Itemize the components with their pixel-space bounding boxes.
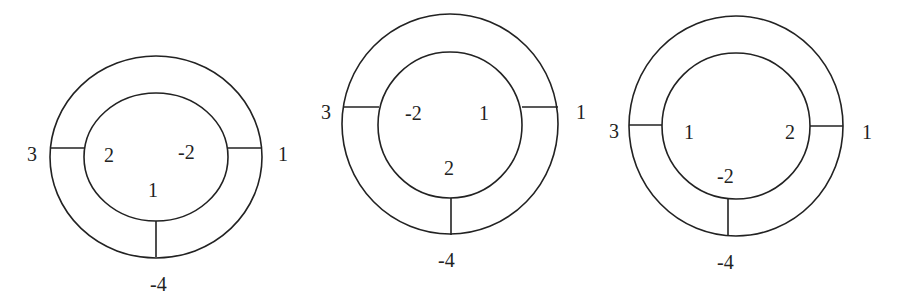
outer-label-right: 1 [576,101,586,123]
outer-label-right: 1 [862,121,872,143]
outer-ring [342,14,558,234]
outer-label-right: 1 [278,143,288,165]
outer-label-bottom: -4 [438,249,455,271]
outer-label-bottom: -4 [150,273,167,295]
inner-label-left: 2 [104,144,114,166]
inner-label-center: -2 [717,165,734,187]
inner-label-center: 2 [444,157,454,179]
diagram-2: 3 1 -4 -2 1 2 [321,14,586,271]
inner-label-left: -2 [405,102,422,124]
outer-label-bottom: -4 [717,251,734,273]
inner-label-left: 1 [684,121,694,143]
inner-label-center: 1 [148,179,158,201]
outer-label-left: 3 [609,120,619,142]
outer-label-left: 3 [321,101,331,123]
diagram-1: 3 1 -4 2 -2 1 [27,56,288,295]
ring-diagrams: 3 1 -4 2 -2 1 3 1 -4 -2 1 2 3 1 -4 1 2 -… [0,0,899,301]
inner-label-right: 2 [785,121,795,143]
diagram-3: 3 1 -4 1 2 -2 [609,16,872,273]
inner-label-right: -2 [178,141,195,163]
inner-label-right: 1 [479,102,489,124]
outer-label-left: 3 [27,143,37,165]
